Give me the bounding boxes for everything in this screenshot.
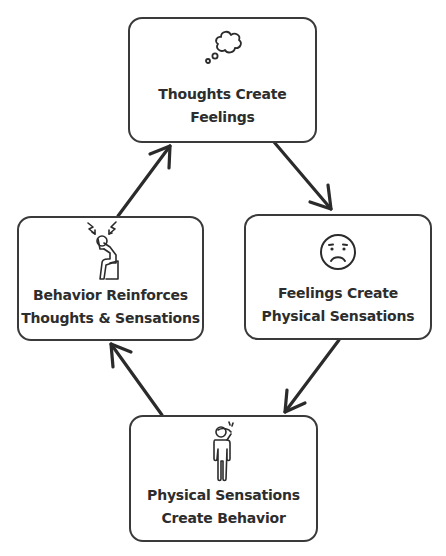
stressed-person-sitting-icon xyxy=(82,219,128,285)
node-behavior-reinforces: Behavior Reinforces Thoughts & Sensation… xyxy=(17,216,204,341)
node-feelings-create-sensations: Feelings Create Physical Sensations xyxy=(244,214,432,340)
node-label: Behavior Reinforces Thoughts & Sensation… xyxy=(19,284,202,330)
node-label-line2: Physical Sensations xyxy=(246,305,430,328)
node-label: Feelings Create Physical Sensations xyxy=(246,282,430,328)
node-label-line2: Create Behavior xyxy=(131,507,316,530)
arrow-feelings-to-sensations xyxy=(285,340,339,412)
thought-bubble-icon xyxy=(199,27,247,77)
node-thoughts-create-feelings: Thoughts Create Feelings xyxy=(128,17,317,143)
node-label: Thoughts Create Feelings xyxy=(130,83,315,129)
node-label-line2: Thoughts & Sensations xyxy=(19,307,202,330)
node-label-line1: Feelings Create xyxy=(246,282,430,305)
node-label-line2: Feelings xyxy=(130,106,315,129)
arrow-behavior-to-thoughts xyxy=(118,146,170,216)
node-label: Physical Sensations Create Behavior xyxy=(131,484,316,530)
node-label-line1: Physical Sensations xyxy=(131,484,316,507)
node-label-line1: Behavior Reinforces xyxy=(19,284,202,307)
node-label-line1: Thoughts Create xyxy=(130,83,315,106)
sad-face-icon xyxy=(318,232,358,276)
arrow-sensations-to-behavior xyxy=(111,344,162,415)
node-sensations-create-behavior: Physical Sensations Create Behavior xyxy=(129,415,318,542)
arrow-thoughts-to-feelings xyxy=(274,142,331,209)
person-headache-icon xyxy=(209,419,239,487)
